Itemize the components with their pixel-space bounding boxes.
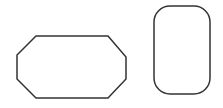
rounded-rectangle-shape: [154, 6, 210, 94]
octagon-shape: [17, 36, 126, 98]
diagram-canvas: [0, 0, 223, 108]
